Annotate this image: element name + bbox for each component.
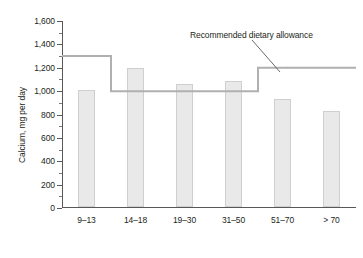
y-tick-label: 800: [41, 110, 55, 120]
rda-step-line: [62, 21, 356, 208]
y-tick-label: 600: [41, 133, 55, 143]
y-tick-label: 1,000: [34, 86, 55, 96]
y-tick-label: 0: [50, 203, 55, 213]
calcium-intake-chart: Calcium, mg per day 02004006008001,0001,…: [0, 0, 363, 258]
y-tick-major: [57, 208, 62, 209]
x-tick-label: 9–13: [77, 215, 96, 225]
rda-annotation-leader-line: [250, 38, 295, 76]
x-tick-label: 14–18: [124, 215, 147, 225]
x-tick-label: > 70: [323, 215, 339, 225]
y-axis-title: Calcium, mg per day: [15, 45, 29, 205]
x-tick-label: 19–30: [173, 215, 196, 225]
y-tick-label: 1,600: [34, 16, 55, 26]
y-tick-label: 400: [41, 156, 55, 166]
y-tick-label: 1,400: [34, 39, 55, 49]
y-tick-label: 200: [41, 180, 55, 190]
x-tick-label: 51–70: [271, 215, 294, 225]
y-tick-label: 1,200: [34, 63, 55, 73]
plot-area: 02004006008001,0001,2001,4001,600 9–1314…: [62, 21, 356, 208]
x-tick-label: 31–50: [222, 215, 245, 225]
